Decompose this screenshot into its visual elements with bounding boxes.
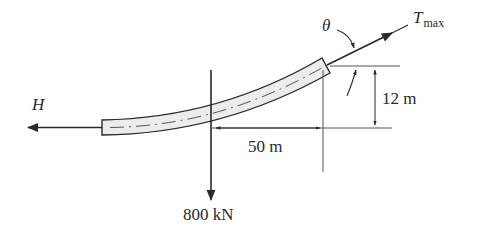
cable-segment — [102, 58, 330, 135]
cable-free-body-diagram: H Tmax θ 12 m 50 m 800 kN — [0, 0, 479, 233]
diagram-canvas — [0, 0, 479, 233]
load-label: 800 kN — [183, 206, 234, 223]
angle-arc-arrow — [347, 70, 356, 96]
h-label: H — [32, 96, 44, 113]
tmax-main: T — [413, 8, 422, 27]
tmax-label: Tmax — [413, 9, 444, 29]
tmax-line-tail — [390, 25, 408, 34]
span-label: 50 m — [248, 138, 282, 155]
rise-label: 12 m — [382, 90, 416, 107]
tmax-subscript: max — [423, 16, 444, 30]
theta-leader-arrow — [337, 30, 354, 48]
theta-label: θ — [322, 17, 330, 34]
tmax-force-arrow — [327, 33, 392, 65]
